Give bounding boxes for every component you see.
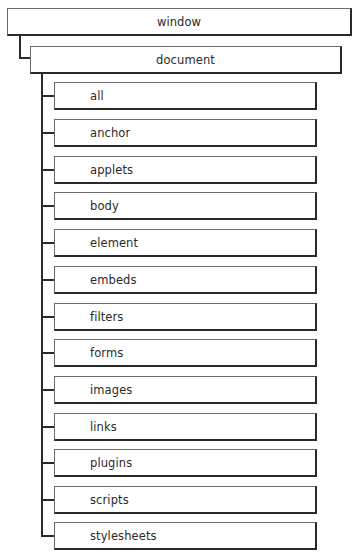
connector-branch xyxy=(41,205,55,207)
connector-branch xyxy=(41,389,55,391)
connector-branch xyxy=(41,132,55,134)
node-label: body xyxy=(90,199,119,213)
node-label: plugins xyxy=(90,456,132,470)
connector-branch xyxy=(41,169,55,171)
connector-branch xyxy=(41,95,55,97)
node-scripts: scripts xyxy=(54,486,317,514)
connector-branch xyxy=(41,426,55,428)
connector-branch xyxy=(41,316,55,318)
node-label: all xyxy=(90,89,104,103)
node-label: images xyxy=(90,383,132,397)
connector-branch xyxy=(41,352,55,354)
node-element: element xyxy=(54,229,317,257)
connector-document-trunk xyxy=(41,72,43,537)
connector-window-vertical xyxy=(19,34,21,59)
node-window: window xyxy=(7,8,352,36)
node-filters: filters xyxy=(54,303,317,331)
node-label: stylesheets xyxy=(90,529,157,543)
node-label: window xyxy=(157,15,201,29)
node-links: links xyxy=(54,413,317,441)
node-label: applets xyxy=(90,163,133,177)
connector-branch xyxy=(41,499,55,501)
node-anchor: anchor xyxy=(54,119,317,147)
node-label: filters xyxy=(90,310,123,324)
node-applets: applets xyxy=(54,156,317,184)
node-body: body xyxy=(54,192,317,220)
connector-branch xyxy=(41,279,55,281)
connector-branch xyxy=(41,242,55,244)
node-label: forms xyxy=(90,346,123,360)
connector-branch xyxy=(41,462,55,464)
node-stylesheets: stylesheets xyxy=(54,522,317,550)
node-embeds: embeds xyxy=(54,266,317,294)
connector-branch xyxy=(41,535,55,537)
node-label: document xyxy=(156,53,215,67)
node-label: element xyxy=(90,236,138,250)
node-all: all xyxy=(54,82,317,110)
node-label: links xyxy=(90,420,117,434)
node-label: embeds xyxy=(90,273,137,287)
node-plugins: plugins xyxy=(54,449,317,477)
node-forms: forms xyxy=(54,339,317,367)
node-document: document xyxy=(30,46,342,74)
node-label: anchor xyxy=(90,126,130,140)
node-images: images xyxy=(54,376,317,404)
node-label: scripts xyxy=(90,493,129,507)
